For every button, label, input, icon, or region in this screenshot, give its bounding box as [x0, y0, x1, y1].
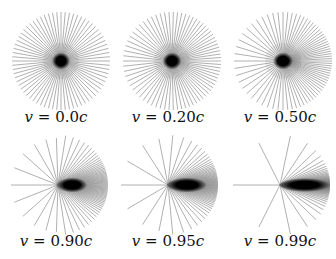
caption-v-0-99c: v = 0.99c — [224, 232, 336, 250]
caption-var: v — [20, 232, 28, 250]
field-line — [23, 154, 58, 185]
field-line — [56, 138, 58, 185]
field-line — [46, 140, 58, 185]
charge-core — [57, 178, 87, 193]
caption-var: v — [132, 108, 140, 126]
field-line — [26, 26, 58, 58]
field-line — [64, 64, 96, 96]
field-line — [280, 185, 290, 234]
field-line — [247, 64, 280, 94]
field-lines-canvas — [0, 0, 336, 259]
field-line — [64, 26, 96, 58]
field-lines-figure: v = 0.0c v = 0.20c v = 0.50c v = 0.90c v… — [0, 0, 336, 259]
field-line — [23, 185, 58, 216]
field-line — [56, 185, 58, 232]
panel-p6 — [233, 136, 331, 234]
caption-v-0-50c: v = 0.50c — [224, 108, 336, 126]
caption-var: v — [244, 232, 252, 250]
field-line — [280, 136, 290, 185]
field-line — [259, 143, 280, 185]
caption-v-0-95c: v = 0.95c — [112, 232, 224, 250]
field-line — [14, 168, 58, 185]
charge-core — [167, 178, 207, 193]
caption-v-0-90c: v = 0.90c — [0, 232, 112, 250]
field-line — [128, 161, 169, 185]
caption-var: v — [132, 232, 140, 250]
caption-var: v — [25, 108, 33, 126]
field-line — [136, 28, 169, 58]
field-line — [247, 28, 280, 58]
field-line — [34, 144, 58, 185]
panel-p3 — [234, 12, 332, 110]
panel-p5 — [121, 135, 218, 235]
caption-v-0-20c: v = 0.20c — [112, 108, 224, 126]
field-line — [14, 185, 58, 202]
caption-v-0-0c: v = 0.0c — [0, 108, 112, 126]
charge-core — [279, 178, 331, 192]
charge-core — [273, 53, 293, 70]
panel-p4 — [11, 136, 108, 235]
field-line — [128, 185, 169, 209]
field-line — [26, 64, 58, 96]
field-line — [46, 185, 58, 230]
field-line — [259, 185, 280, 227]
charge-core — [52, 53, 70, 70]
charge-core — [163, 53, 182, 70]
panel-p1 — [12, 12, 110, 110]
field-line — [136, 64, 169, 94]
panel-p2 — [123, 12, 221, 110]
field-line — [34, 185, 58, 226]
caption-var: v — [244, 108, 252, 126]
